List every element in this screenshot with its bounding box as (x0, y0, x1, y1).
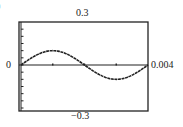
plot-area (0, 0, 183, 127)
plot-frame (19, 22, 148, 111)
